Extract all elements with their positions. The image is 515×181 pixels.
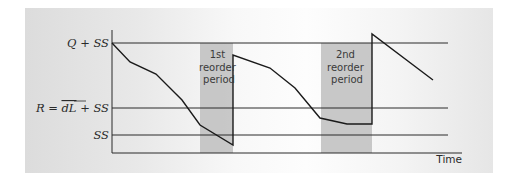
safety-stock-label: SS xyxy=(93,128,109,142)
x-axis-label: Time xyxy=(435,153,462,165)
q-plus-ss-label: Q + SS xyxy=(67,36,109,50)
inventory-line xyxy=(112,34,433,145)
reorder-point-label: R = dL + SS xyxy=(35,101,109,115)
inventory-chart: Q + SS R = dL + SS SS 1st reorder period… xyxy=(0,0,515,181)
